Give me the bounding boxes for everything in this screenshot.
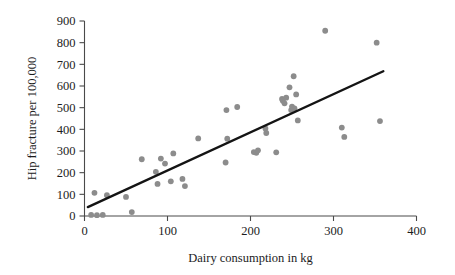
- x-tick-label: 0: [81, 224, 87, 238]
- x-axis-title: Dairy consumption in kg: [188, 251, 313, 265]
- data-point: [339, 125, 345, 131]
- data-point: [168, 178, 174, 184]
- y-tick-label: 500: [57, 101, 76, 115]
- trend-line: [88, 71, 383, 207]
- data-point: [158, 156, 164, 162]
- data-point: [223, 160, 229, 166]
- data-point: [341, 134, 347, 140]
- y-tick-label: 0: [69, 209, 75, 223]
- x-tick-label: 300: [324, 224, 343, 238]
- y-tick-label: 100: [57, 188, 76, 202]
- data-point: [155, 181, 161, 187]
- data-point: [263, 130, 269, 136]
- data-point: [139, 156, 145, 162]
- data-point: [255, 147, 261, 153]
- chart-canvas: 0100200300400500600700800900010020030040…: [0, 0, 455, 275]
- data-point: [287, 84, 293, 90]
- data-point-group: [88, 28, 383, 218]
- y-axis-title: Hip fracture per 100,000: [25, 57, 39, 181]
- data-point: [182, 183, 188, 189]
- data-point: [377, 118, 383, 124]
- x-tick-label: 200: [241, 224, 260, 238]
- data-point: [224, 107, 230, 113]
- data-point: [162, 161, 168, 167]
- data-point: [283, 95, 289, 101]
- data-point: [295, 118, 301, 124]
- data-point: [180, 176, 186, 182]
- data-point: [94, 212, 100, 218]
- data-point: [322, 28, 328, 34]
- x-tick-label: 100: [158, 224, 177, 238]
- y-tick-label: 700: [57, 58, 76, 72]
- x-tick-label: 400: [407, 224, 426, 238]
- scatter-plot-figure: 0100200300400500600700800900010020030040…: [0, 0, 455, 275]
- data-point: [88, 212, 94, 218]
- data-point: [293, 92, 299, 98]
- data-point: [92, 190, 98, 196]
- y-tick-label: 400: [57, 123, 76, 137]
- y-tick-label: 300: [57, 144, 76, 158]
- y-tick-label: 900: [57, 14, 76, 28]
- data-point: [374, 40, 380, 46]
- data-point: [195, 136, 201, 142]
- data-point: [273, 149, 279, 155]
- y-tick-label: 600: [57, 79, 76, 93]
- y-tick-label: 800: [57, 36, 76, 50]
- data-point: [100, 212, 106, 218]
- y-tick-label: 200: [57, 166, 76, 180]
- data-point: [291, 73, 297, 79]
- data-point: [170, 150, 176, 156]
- data-point: [123, 194, 129, 200]
- data-point: [282, 100, 288, 106]
- data-point: [224, 136, 230, 142]
- data-point: [129, 209, 135, 215]
- data-point: [234, 104, 240, 110]
